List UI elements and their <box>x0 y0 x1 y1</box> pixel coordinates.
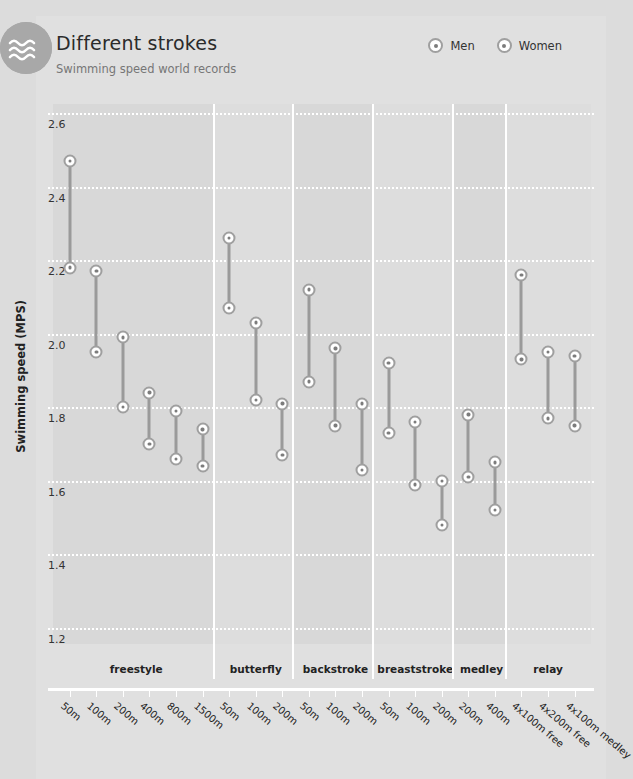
connector-line <box>467 415 470 478</box>
data-point-women[interactable] <box>462 471 475 484</box>
x-axis-line <box>48 688 594 691</box>
y-axis-tick-label: 1.8 <box>48 412 66 425</box>
data-point-women[interactable] <box>302 375 315 388</box>
group-label-freestyle: freestyle <box>110 663 163 675</box>
y-axis-tick-label: 1.2 <box>48 633 66 646</box>
group-label-relay: relay <box>533 663 563 675</box>
x-axis-tick <box>309 691 310 697</box>
data-point-men[interactable] <box>488 456 501 469</box>
data-point-men[interactable] <box>462 408 475 421</box>
x-axis-tick-label: 200m <box>431 700 460 727</box>
data-point-women[interactable] <box>143 438 156 451</box>
y-axis-tick-label: 2.6 <box>48 118 66 131</box>
data-point-men[interactable] <box>170 404 183 417</box>
gridline <box>48 628 594 630</box>
gridline <box>48 113 594 115</box>
connector-line <box>547 352 550 418</box>
data-point-men[interactable] <box>276 397 289 410</box>
x-axis-tick <box>442 691 443 697</box>
data-point-men[interactable] <box>63 154 76 167</box>
data-point-men[interactable] <box>568 349 581 362</box>
data-point-women[interactable] <box>90 346 103 359</box>
data-point-women[interactable] <box>515 353 528 366</box>
y-axis-label: Swimming speed (MPS) <box>14 300 28 453</box>
data-point-women[interactable] <box>382 427 395 440</box>
x-axis-tick <box>176 691 177 697</box>
x-axis-tick-label: 100m <box>245 700 274 727</box>
data-point-men[interactable] <box>435 474 448 487</box>
data-point-women[interactable] <box>276 449 289 462</box>
data-point-men[interactable] <box>196 423 209 436</box>
group-separator <box>292 104 294 679</box>
group-separator <box>372 104 374 679</box>
data-point-women[interactable] <box>116 401 129 414</box>
data-point-men[interactable] <box>515 268 528 281</box>
x-axis-tick <box>123 691 124 697</box>
x-axis-tick-label: 400m <box>484 700 513 727</box>
x-axis-tick-label: 400m <box>138 700 167 727</box>
connector-line <box>95 271 98 352</box>
connector-line <box>148 393 151 445</box>
group-label-medley: medley <box>460 663 503 675</box>
data-point-men[interactable] <box>223 232 236 245</box>
x-axis-tick <box>256 691 257 697</box>
connector-line <box>520 275 523 360</box>
y-axis-tick-label: 1.6 <box>48 486 66 499</box>
waves-icon <box>0 22 52 74</box>
data-point-women[interactable] <box>488 504 501 517</box>
x-axis-tick-label: 200m <box>457 700 486 727</box>
gridline <box>48 260 594 262</box>
y-axis-tick-label: 2.0 <box>48 339 66 352</box>
data-point-men[interactable] <box>90 265 103 278</box>
data-point-men[interactable] <box>329 342 342 355</box>
x-axis-tick <box>521 691 522 697</box>
data-point-women[interactable] <box>170 452 183 465</box>
y-axis-tick-label: 2.4 <box>48 192 66 205</box>
gridline <box>48 407 594 409</box>
data-point-men[interactable] <box>143 386 156 399</box>
data-point-men[interactable] <box>249 316 262 329</box>
data-point-women[interactable] <box>568 419 581 432</box>
data-point-men[interactable] <box>409 416 422 429</box>
connector-line <box>281 404 284 456</box>
data-point-women[interactable] <box>329 419 342 432</box>
data-point-women[interactable] <box>249 393 262 406</box>
x-axis-tick-label: 50m <box>298 700 322 723</box>
data-point-men[interactable] <box>302 283 315 296</box>
x-axis-tick <box>389 691 390 697</box>
x-axis-tick-label: 100m <box>404 700 433 727</box>
connector-line <box>68 161 71 268</box>
data-point-women[interactable] <box>63 261 76 274</box>
x-axis-tick <box>203 691 204 697</box>
data-point-women[interactable] <box>435 519 448 532</box>
data-point-women[interactable] <box>409 478 422 491</box>
connector-line <box>307 290 310 382</box>
data-point-men[interactable] <box>542 346 555 359</box>
x-axis-tick <box>415 691 416 697</box>
x-axis-tick <box>96 691 97 697</box>
group-separator <box>213 104 215 679</box>
data-point-women[interactable] <box>356 463 369 476</box>
connector-line <box>121 337 124 407</box>
x-axis-tick-label: 200m <box>351 700 380 727</box>
connector-line <box>228 238 231 308</box>
connector-line <box>254 323 257 400</box>
data-point-women[interactable] <box>542 412 555 425</box>
data-point-women[interactable] <box>223 301 236 314</box>
x-axis-tick-label: 100m <box>85 700 114 727</box>
data-point-men[interactable] <box>382 357 395 370</box>
group-separator <box>452 104 454 679</box>
connector-line <box>573 356 576 426</box>
x-axis-tick <box>70 691 71 697</box>
data-point-men[interactable] <box>116 331 129 344</box>
x-axis-tick-label: 200m <box>112 700 141 727</box>
group-label-breaststroke: breaststroke <box>377 663 453 675</box>
x-axis-tick <box>362 691 363 697</box>
data-point-women[interactable] <box>196 460 209 473</box>
x-axis-tick-label: 800m <box>165 700 194 727</box>
x-axis-tick-label: 200m <box>271 700 300 727</box>
gridline <box>48 554 594 556</box>
group-label-butterfly: butterfly <box>230 663 282 675</box>
data-point-men[interactable] <box>356 397 369 410</box>
